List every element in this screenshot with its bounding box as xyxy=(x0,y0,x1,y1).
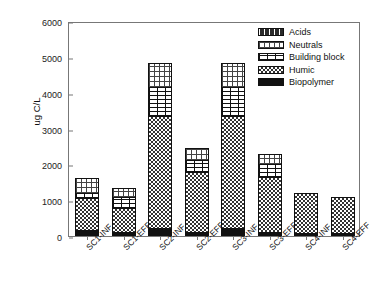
legend-item[interactable]: Biopolymer xyxy=(258,77,345,87)
y-tick-label: 6000 xyxy=(42,18,69,28)
legend-swatch-building-block xyxy=(258,53,284,61)
legend-label: Humic xyxy=(289,65,315,75)
legend-item[interactable]: Neutrals xyxy=(258,40,345,50)
y-tick-mark xyxy=(69,238,73,239)
y-tick-label: 2000 xyxy=(42,161,69,171)
x-tick-mark xyxy=(343,236,344,240)
x-tick-mark xyxy=(197,236,198,240)
bar-group[interactable] xyxy=(75,178,99,236)
bar-segment-building-block[interactable] xyxy=(222,88,244,117)
legend-label: Building block xyxy=(289,52,345,62)
y-axis-label: ug C/L xyxy=(31,82,42,142)
bar-segment-humic[interactable] xyxy=(76,199,98,230)
bar-segment-neutrals[interactable] xyxy=(113,189,135,198)
bar-segment-neutrals[interactable] xyxy=(259,155,281,165)
bar-segment-humic[interactable] xyxy=(186,173,208,233)
stacked-bar[interactable] xyxy=(75,178,99,236)
stacked-bar[interactable] xyxy=(185,148,209,236)
bar-segment-humic[interactable] xyxy=(113,209,135,233)
bar-segment-humic[interactable] xyxy=(222,117,244,229)
bar-group[interactable] xyxy=(331,197,355,236)
chart-legend: AcidsNeutralsBuilding blockHumicBiopolym… xyxy=(258,27,345,87)
legend-swatch-neutrals xyxy=(258,41,284,49)
y-tick-label: 0 xyxy=(57,233,69,243)
legend-swatch-acids xyxy=(258,28,284,36)
x-tick-mark xyxy=(270,236,271,240)
bar-segment-humic[interactable] xyxy=(259,178,281,233)
chart-figure: ug C/L 0100020003000400050006000 SC1-INF… xyxy=(0,0,374,285)
y-tick-label: 1000 xyxy=(42,197,69,207)
y-tick-label: 5000 xyxy=(42,54,69,64)
stacked-bar[interactable] xyxy=(294,193,318,236)
y-tick-label: 4000 xyxy=(42,90,69,100)
stacked-bar[interactable] xyxy=(112,188,136,236)
legend-label: Acids xyxy=(289,27,311,37)
bar-group[interactable] xyxy=(221,63,245,236)
stacked-bar[interactable] xyxy=(221,63,245,236)
bar-segment-neutrals[interactable] xyxy=(222,64,244,88)
bar-segment-humic[interactable] xyxy=(295,194,317,234)
legend-swatch-humic xyxy=(258,66,284,74)
legend-swatch-biopolymer xyxy=(258,78,284,86)
stacked-bar[interactable] xyxy=(258,154,282,236)
bar-segment-humic[interactable] xyxy=(149,117,171,229)
bar-group[interactable] xyxy=(148,63,172,236)
x-tick-mark xyxy=(124,236,125,240)
bar-segment-building-block[interactable] xyxy=(186,161,208,173)
bar-segment-neutrals[interactable] xyxy=(149,64,171,88)
legend-label: Biopolymer xyxy=(289,77,334,87)
stacked-bar[interactable] xyxy=(148,63,172,236)
bar-group[interactable] xyxy=(185,148,209,236)
legend-item[interactable]: Humic xyxy=(258,65,345,75)
stacked-bar[interactable] xyxy=(331,197,355,236)
bar-segment-building-block[interactable] xyxy=(259,165,281,177)
legend-item[interactable]: Building block xyxy=(258,52,345,62)
bar-group[interactable] xyxy=(258,154,282,236)
bar-segment-neutrals[interactable] xyxy=(186,149,208,161)
bar-segment-building-block[interactable] xyxy=(149,88,171,117)
legend-item[interactable]: Acids xyxy=(258,27,345,37)
bar-segment-humic[interactable] xyxy=(332,198,354,234)
legend-label: Neutrals xyxy=(289,40,323,50)
bar-group[interactable] xyxy=(294,193,318,236)
bar-group[interactable] xyxy=(112,188,136,236)
y-tick-label: 3000 xyxy=(42,126,69,136)
bar-segment-building-block[interactable] xyxy=(113,198,135,209)
bar-segment-neutrals[interactable] xyxy=(76,179,98,194)
